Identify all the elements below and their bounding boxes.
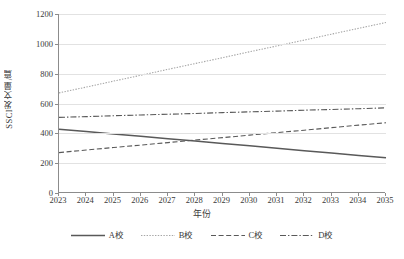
y-tick-mark	[55, 133, 58, 134]
x-tick-mark	[249, 193, 250, 196]
y-tick-label: 200	[7, 159, 53, 168]
x-tick-mark	[276, 193, 277, 196]
x-tick-mark	[113, 193, 114, 196]
legend-item-A校[interactable]: A校	[71, 231, 124, 240]
x-tick-mark	[222, 193, 223, 196]
legend-item-C校[interactable]: C校	[211, 231, 264, 240]
y-tick-label: 1200	[7, 10, 53, 19]
legend-label: C校	[249, 231, 264, 240]
chart-legend: A校B校C校D校	[0, 231, 404, 240]
legend-line-icon	[211, 232, 245, 239]
y-tick-mark	[55, 104, 58, 105]
y-tick-label: 400	[7, 129, 53, 138]
series-line-B校	[59, 23, 386, 93]
x-axis-title: 年份	[0, 207, 404, 220]
legend-label: A校	[109, 231, 124, 240]
legend-line-icon	[141, 232, 175, 239]
series-line-D校	[59, 108, 386, 118]
legend-label: B校	[179, 231, 194, 240]
legend-line-icon	[280, 232, 314, 239]
gridline	[59, 104, 386, 105]
legend-line-icon	[71, 232, 105, 239]
y-tick-label: 600	[7, 99, 53, 108]
x-tick-mark	[58, 193, 59, 196]
gridline	[59, 44, 386, 45]
gridline	[59, 163, 386, 164]
x-tick-label: 2035	[368, 196, 402, 205]
gridline	[59, 14, 386, 15]
x-tick-mark	[167, 193, 168, 196]
y-tick-label: 1000	[7, 40, 53, 49]
legend-item-B校[interactable]: B校	[141, 231, 194, 240]
x-tick-mark	[140, 193, 141, 196]
plot-area	[58, 14, 385, 193]
x-tick-mark	[358, 193, 359, 196]
x-tick-mark	[331, 193, 332, 196]
series-line-C校	[59, 123, 386, 153]
line-chart: SSCI发文量/篇 020040060080010001200 20232024…	[0, 0, 404, 259]
y-tick-mark	[55, 44, 58, 45]
x-tick-mark	[85, 193, 86, 196]
y-tick-label: 800	[7, 69, 53, 78]
y-tick-mark	[55, 14, 58, 15]
y-tick-mark	[55, 163, 58, 164]
gridline	[59, 74, 386, 75]
x-tick-mark	[303, 193, 304, 196]
legend-item-D校[interactable]: D校	[280, 231, 333, 240]
legend-label: D校	[318, 231, 333, 240]
x-tick-mark	[194, 193, 195, 196]
y-tick-mark	[55, 74, 58, 75]
gridline	[59, 133, 386, 134]
x-tick-mark	[385, 193, 386, 196]
